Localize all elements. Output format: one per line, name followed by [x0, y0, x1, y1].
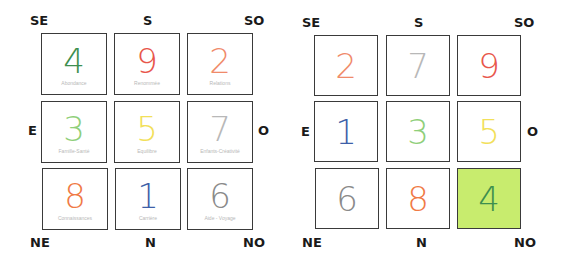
cell-number: 4: [42, 44, 106, 78]
cell-number: 5: [458, 115, 520, 149]
direction-so: SO: [514, 16, 534, 29]
cell-number: 9: [115, 44, 179, 78]
grid-cell: 6: [315, 168, 379, 229]
cell-label: Carrière: [116, 215, 180, 221]
cell-number: 9: [458, 49, 520, 83]
grid-cell: 9: [457, 35, 521, 96]
direction-se: SE: [30, 14, 48, 27]
direction-ne: NE: [302, 236, 322, 249]
grid-cell: 7 Enfants-Créativité: [187, 101, 253, 163]
cell-number: 1: [315, 115, 377, 149]
cell-label: Renommée: [115, 80, 179, 86]
direction-se: SE: [302, 16, 320, 29]
direction-n: N: [145, 236, 156, 249]
grid-cell: 8 Connaissances: [42, 168, 108, 230]
cell-number: 4: [458, 182, 520, 216]
cell-number: 6: [188, 179, 252, 213]
grid-cell: 3: [386, 101, 450, 162]
direction-s: S: [414, 16, 423, 29]
grid-cell: 1: [314, 101, 378, 162]
cell-number: 8: [387, 182, 449, 216]
cell-number: 6: [316, 182, 378, 216]
grid-cell: 7: [386, 35, 450, 96]
cell-number: 7: [188, 112, 252, 146]
grid-cell: 9 Renommée: [114, 33, 180, 95]
cell-label: Abondance: [42, 80, 106, 86]
grid-cell: 5 Equilibre: [114, 101, 180, 163]
grid-cell: 4 Abondance: [41, 33, 107, 95]
grid-cell: 1 Carrière: [115, 168, 181, 230]
cell-label: Equilibre: [115, 148, 179, 154]
direction-no: NO: [514, 236, 536, 249]
grid-cell-highlighted: 4: [457, 168, 521, 229]
direction-e: E: [301, 125, 310, 138]
grid-cell: 2 Relations: [187, 33, 253, 95]
direction-o: O: [258, 124, 269, 137]
cell-number: 8: [43, 179, 107, 213]
cell-number: 5: [115, 112, 179, 146]
grid-cell: 8: [386, 168, 450, 229]
cell-label: Aide - Voyage: [188, 215, 252, 221]
direction-ne: NE: [30, 236, 50, 249]
direction-o: O: [527, 125, 538, 138]
cell-number: 3: [42, 112, 106, 146]
cell-label: Relations: [188, 80, 252, 86]
cell-label: Connaissances: [43, 215, 107, 221]
grid-cell: 6 Aide - Voyage: [187, 168, 253, 230]
grid-cell: 3 Famille-Santé: [41, 101, 107, 163]
cell-number: 2: [315, 49, 377, 83]
cell-number: 3: [387, 115, 449, 149]
grid-cell: 5: [457, 101, 521, 162]
cell-number: 7: [387, 49, 449, 83]
direction-e: E: [28, 124, 37, 137]
cell-label: Enfants-Créativité: [188, 148, 252, 154]
direction-no: NO: [243, 236, 265, 249]
cell-number: 2: [188, 44, 252, 78]
cell-number: 1: [116, 179, 180, 213]
grid-cell: 2: [314, 35, 378, 96]
direction-s: S: [143, 14, 152, 27]
direction-n: N: [416, 236, 427, 249]
direction-so: SO: [244, 14, 264, 27]
cell-label: Famille-Santé: [42, 148, 106, 154]
